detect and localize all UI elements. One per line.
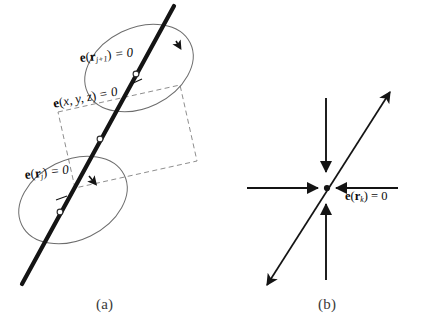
thick-trajectory-line [22, 6, 174, 284]
label-ej1-equals: = 0 [114, 44, 134, 61]
caption-panel-a: (a) [96, 296, 113, 313]
node-marker-middle [97, 136, 103, 142]
figure-root: e(rj+1) = 0 e(x, y, z) = 0 e(rj) = 0 e(r… [0, 0, 429, 323]
label-ek-subscript: k [360, 195, 363, 204]
label-e-r-k: e(rk) = 0 [345, 190, 387, 203]
label-tick-lower [56, 196, 67, 200]
lower-ellipse-direction-arrow [89, 176, 94, 182]
label-ek-close-paren: ) [364, 189, 368, 203]
node-marker-upper [133, 71, 139, 77]
upper-ellipse-direction-arrow [176, 41, 179, 46]
node-marker-lower [57, 209, 63, 215]
label-ej-equals: = 0 [49, 162, 69, 179]
caption-panel-b: (b) [318, 296, 336, 313]
label-ej1-subscript: j+1 [95, 54, 108, 64]
lower-ellipse [4, 139, 142, 261]
label-ek-equals: = 0 [371, 189, 387, 203]
